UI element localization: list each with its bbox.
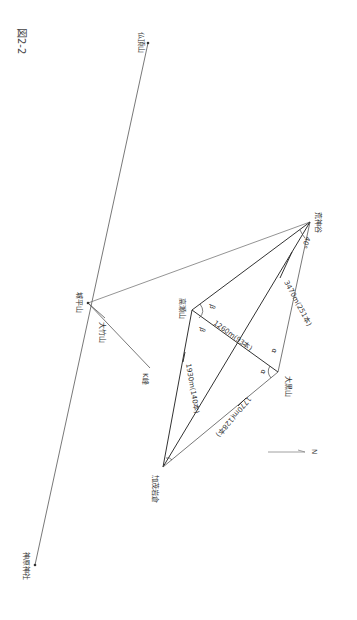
point-jodairayama [87,302,90,305]
label-k-peak: K峰 [141,373,150,385]
measurement-1770: 1770m(128本) [214,395,253,440]
angle-label-kojindani: 40° [300,235,312,249]
label-kamoiwakura: 加茂岩倉 [151,475,160,503]
label-butchozan: 仏頂山 [137,32,146,53]
figure-title: 図2-2 [16,28,27,54]
label-takaseyama: 高瀬山 [178,298,187,319]
line-kojindani-kamoiwakura [163,222,310,467]
measurement-3470: 3470m(251本) [282,279,314,328]
angle-label-alpha-1: α [269,347,278,354]
measurement-1930: 1930m(140本) [184,363,202,415]
point-kanbarajinja [34,564,37,567]
angle-label-alpha-2: α [258,368,267,375]
label-jodairayama: 城平山 [75,292,84,313]
north-label: N [310,449,318,454]
label-daikokuyama: 大黒山 [284,376,293,397]
label-otakeyama: 大竹山 [98,322,107,343]
angle-label-beta-2: β [198,326,207,333]
line-daikokuyama-kamoiwakura [163,372,278,467]
angle-arc-daikokuyama [268,366,271,378]
leader-3470 [280,252,292,278]
triangulation-diagram: 図2-2 仏頂山 荒神谷 城平山 高瀬山 大黒山 加茂岩倉 大竹山 K峰 神原神… [0,0,357,620]
measurement-1260: 1260m(93本) [212,318,255,352]
angle-label-beta-1: β [208,303,217,310]
label-kojindani: 荒神谷 [314,212,323,233]
point-butchozan [147,42,150,45]
label-kanbarajinja: 神原神社 [22,552,31,580]
line-kojindani-jodairayama [88,222,310,303]
line-jodairayama-kpeak [88,303,150,368]
line-butchozan-kanbarajinja [35,43,148,565]
